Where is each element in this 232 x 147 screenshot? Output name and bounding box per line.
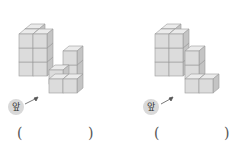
right-figure bbox=[155, 24, 219, 93]
cube-figures bbox=[0, 0, 232, 147]
answer-close-paren: ) bbox=[224, 126, 229, 140]
answer-open-paren: ( bbox=[17, 126, 22, 140]
left-figure bbox=[19, 24, 83, 93]
front-label-badge: 앞 bbox=[143, 99, 159, 115]
answer-close-paren: ) bbox=[88, 126, 93, 140]
answer-open-paren: ( bbox=[154, 126, 159, 140]
front-arrow-icon bbox=[25, 97, 38, 104]
front-arrow-icon bbox=[161, 97, 173, 104]
front-label-badge: 앞 bbox=[8, 99, 24, 115]
